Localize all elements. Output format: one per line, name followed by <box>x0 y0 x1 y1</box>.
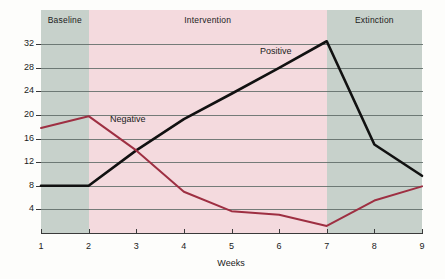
series-plot <box>0 0 445 279</box>
series-line-negative <box>41 116 422 226</box>
series-annotation-positive: Positive <box>260 46 292 56</box>
series-line-positive <box>41 41 422 186</box>
x-axis-title: Weeks <box>181 258 281 268</box>
series-annotation-negative: Negative <box>110 114 146 124</box>
chart-figure: BaselineInterventionExtinction 481216202… <box>0 0 445 279</box>
